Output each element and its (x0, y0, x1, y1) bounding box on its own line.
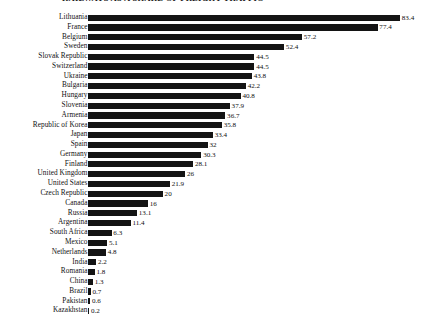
bar-track: 35.8 (88, 122, 222, 128)
bar-value-label: 83.4 (402, 14, 414, 22)
bar-value-label: 43.8 (254, 72, 266, 80)
category-label: Armenia (62, 111, 88, 120)
bar-track: 0.2 (88, 308, 89, 314)
category-label: Switzerland (52, 62, 87, 71)
category-label: Republic of Korea (33, 121, 88, 130)
category-label: Japan (71, 130, 88, 139)
bar-fill (88, 44, 284, 50)
category-label: Hungary (62, 91, 88, 100)
bar-track: 4.8 (88, 249, 106, 255)
bar-row: Japan33.4 (0, 130, 431, 140)
category-label: Ukraine (64, 72, 88, 81)
category-label: Mexico (65, 238, 88, 247)
bar-track: 83.4 (88, 15, 400, 21)
bar-fill (88, 152, 201, 158)
bar-value-label: 0.7 (92, 288, 101, 296)
bar-fill (88, 220, 131, 226)
category-label: Slovak Republic (38, 52, 87, 61)
bar-track: 33.4 (88, 132, 213, 138)
category-label: Czech Republic (40, 189, 87, 198)
bar-value-label: 11.4 (132, 219, 144, 227)
bar-fill (88, 210, 137, 216)
category-label: Spain (71, 140, 88, 149)
bar-track: 5.1 (88, 240, 107, 246)
bar-track: 37.9 (88, 103, 230, 109)
bar-value-label: 40.8 (242, 92, 254, 100)
bar-track: 40.8 (88, 93, 241, 99)
category-label: Bulgaria (62, 81, 88, 90)
bar-fill (88, 200, 148, 206)
bar-fill (88, 308, 89, 314)
bar-value-label: 52.4 (286, 43, 298, 51)
bar-fill (88, 15, 400, 21)
category-label: Lithuania (59, 13, 87, 22)
bar-track: 16 (88, 200, 148, 206)
category-label: Netherlands (52, 248, 88, 257)
bar-value-label: 28.1 (195, 160, 207, 168)
plot-area: Lithuania83.4France77.4Belgium57.2Sweden… (0, 13, 431, 309)
bar-fill (88, 112, 225, 118)
bar-track: 6.3 (88, 230, 112, 236)
bar-value-label: 6.3 (113, 229, 122, 237)
bar-track: 44.5 (88, 54, 254, 60)
bar-value-label: 44.5 (256, 53, 268, 61)
bar-value-label: 57.2 (304, 33, 316, 41)
figure-number: 118 (6, 0, 18, 2)
bar-value-label: 30.3 (203, 151, 215, 159)
bar-track: 0.6 (88, 298, 90, 304)
bar-fill (88, 191, 163, 197)
bar-value-label: 21.9 (172, 180, 184, 188)
category-label: Russia (68, 209, 88, 218)
bar-row: Canada16 (0, 199, 431, 209)
bar-fill (88, 132, 213, 138)
bar-value-label: 32 (210, 141, 217, 149)
bar-track: 20 (88, 191, 163, 197)
bar-track: 13.1 (88, 210, 137, 216)
bar-track: 11.4 (88, 220, 131, 226)
bar-track: 42.2 (88, 83, 246, 89)
bar-fill (88, 103, 230, 109)
category-label: Kazakhstan (53, 306, 88, 315)
bar-value-label: 0.2 (91, 307, 100, 315)
bar-row: Republic of Korea35.8 (0, 121, 431, 131)
bar-row: Kazakhstan0.2 (0, 306, 431, 316)
bar-fill (88, 34, 302, 40)
bar-track: 26 (88, 171, 185, 177)
category-label: Germany (60, 150, 88, 159)
bar-fill (88, 24, 378, 30)
bar-fill (88, 230, 112, 236)
bar-track: 57.2 (88, 34, 302, 40)
bar-fill (88, 240, 107, 246)
category-label: India (72, 258, 87, 267)
bar-track: 36.7 (88, 112, 225, 118)
bar-value-label: 0.6 (92, 297, 101, 305)
bar-value-label: 35.8 (224, 121, 236, 129)
bar-value-label: 2.2 (98, 258, 107, 266)
bar-fill (88, 279, 93, 285)
bar-track: 52.4 (88, 44, 284, 50)
bar-track: 21.9 (88, 181, 170, 187)
bar-value-label: 44.5 (256, 63, 268, 71)
bar-fill (88, 73, 252, 79)
bar-track: 0.7 (88, 288, 91, 294)
bar-fill (88, 269, 95, 275)
bar-value-label: 36.7 (227, 112, 239, 120)
bar-value-label: 1.8 (97, 268, 106, 276)
bar-track: 44.5 (88, 63, 254, 69)
bar-track: 43.8 (88, 73, 252, 79)
bar-value-label: 20 (165, 190, 172, 198)
bar-row: Lithuania83.4 (0, 13, 431, 23)
bar-value-label: 33.4 (215, 131, 227, 139)
bar-value-label: 77.4 (379, 23, 391, 31)
bar-fill (88, 54, 254, 60)
category-label: France (67, 23, 87, 32)
bar-track: 1.8 (88, 269, 95, 275)
bar-track: 77.4 (88, 24, 378, 30)
category-label: Sweden (64, 42, 87, 51)
category-label: Slovenia (62, 101, 88, 110)
bar-value-label: 42.2 (248, 82, 260, 90)
bar-value-label: 37.9 (232, 102, 244, 110)
bar-row: China1.3 (0, 277, 431, 287)
bar-track: 2.2 (88, 259, 96, 265)
bar-track: 28.1 (88, 161, 193, 167)
